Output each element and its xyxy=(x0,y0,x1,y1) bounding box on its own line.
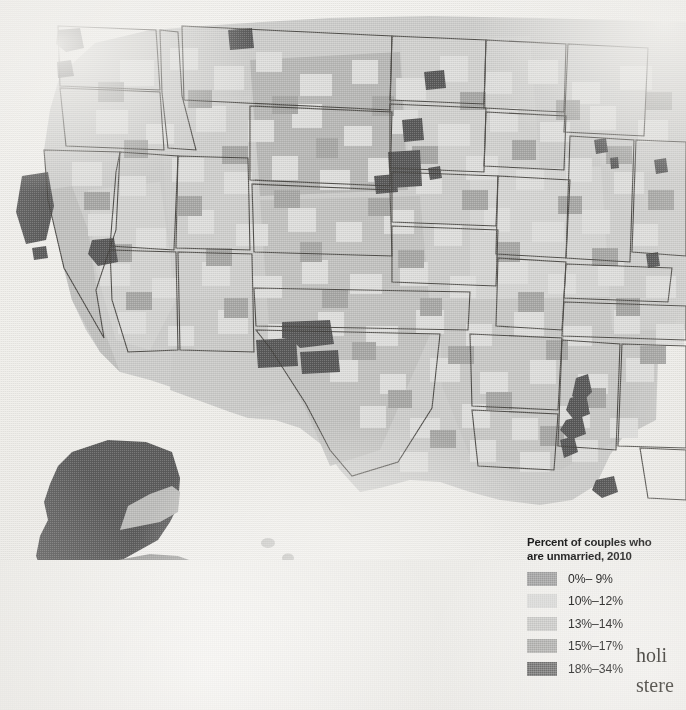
map-halftone xyxy=(0,0,686,560)
legend-swatch-0 xyxy=(527,572,557,586)
legend-label-1: 10%–12% xyxy=(568,594,623,608)
body-text-line-2: stere xyxy=(636,670,674,700)
legend-swatch-3 xyxy=(527,639,557,653)
legend-item: 0%– 9% xyxy=(527,569,686,588)
legend-label-4: 18%–34% xyxy=(568,662,623,676)
legend-title: Percent of couples who are unmarried, 20… xyxy=(527,536,686,563)
legend-item: 10%–12% xyxy=(527,592,686,611)
choropleth-map xyxy=(0,0,686,560)
legend-title-line-1: Percent of couples who xyxy=(527,536,686,550)
legend-swatch-2 xyxy=(527,617,557,631)
us-county-choropleth-svg xyxy=(0,0,686,560)
body-text-column: holi stere xyxy=(636,640,674,700)
legend-swatch-1 xyxy=(527,594,557,608)
legend-item: 13%–14% xyxy=(527,614,686,633)
legend-swatch-4 xyxy=(527,662,557,676)
body-text-line-1: holi xyxy=(636,640,674,670)
legend-label-0: 0%– 9% xyxy=(568,572,613,586)
legend-label-3: 15%–17% xyxy=(568,639,623,653)
map-body xyxy=(0,0,686,560)
legend-title-line-2: are unmarried, 2010 xyxy=(527,550,686,564)
legend-label-2: 13%–14% xyxy=(568,617,623,631)
